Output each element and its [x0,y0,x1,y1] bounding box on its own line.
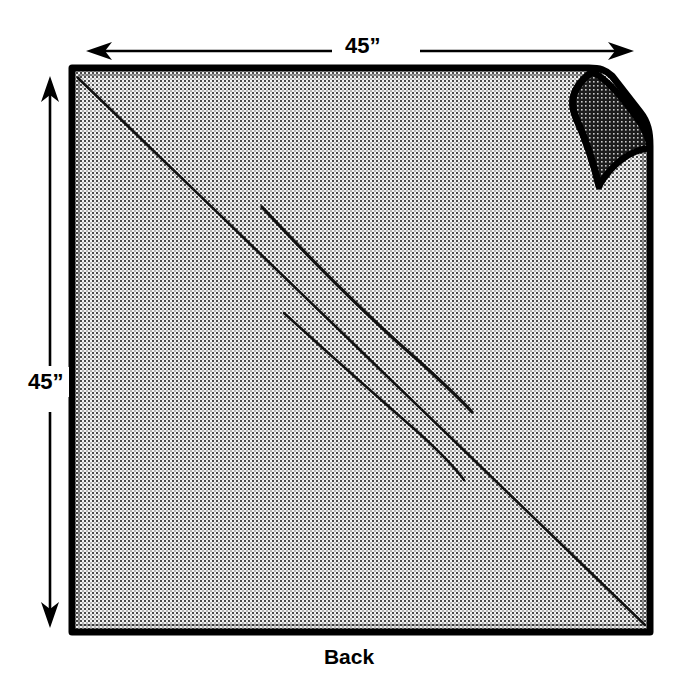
height-dimension-label: 45” [22,367,69,397]
height-dimension-arrow [41,76,59,628]
width-dimension-label: 45” [336,35,389,57]
figure-canvas: 45” 45” Back [0,0,698,685]
back-caption: Back [0,645,698,669]
fabric-diagram [0,0,698,685]
